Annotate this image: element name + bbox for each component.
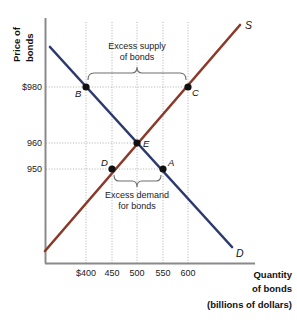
ytick-label-950: 950 (27, 164, 42, 174)
x-axis-title-line1: Quantity (253, 269, 292, 280)
point-a-label: A (167, 157, 174, 168)
x-axis-title-line2: of bonds (252, 283, 292, 294)
point-c-marker[interactable] (184, 83, 191, 90)
ytick-label-980: $980 (22, 82, 42, 92)
chart-canvas: S D Excess supply of bonds Excess demand… (0, 0, 297, 325)
x-axis-title-line3: (billions of dollars) (207, 299, 292, 310)
excess-demand-brace (114, 175, 161, 187)
x-axis-title: Quantity of bonds (billions of dollars) (207, 269, 293, 310)
point-e-marker[interactable] (133, 139, 140, 146)
ytick-label-960: 960 (27, 138, 42, 148)
excess-demand-label-line1: Excess demand (105, 190, 169, 200)
demand-curve[interactable] (50, 47, 232, 247)
point-c-label: C (192, 87, 199, 98)
supply-curve-label: S (245, 19, 252, 31)
xtick-label-450: 450 (104, 268, 119, 278)
y-axis-title: Price of bonds (11, 26, 35, 62)
excess-supply-label-line1: Excess supply (108, 41, 166, 51)
point-d-marker[interactable] (108, 165, 115, 172)
brace-lower-path (114, 175, 161, 187)
xtick-label-400: $400 (76, 268, 96, 278)
point-b-marker[interactable] (82, 83, 89, 90)
bond-market-chart: S D Excess supply of bonds Excess demand… (0, 0, 297, 325)
y-axis-title-line2: bonds (24, 34, 35, 63)
point-b-label: B (75, 88, 82, 99)
point-e-label: E (143, 138, 150, 149)
xtick-label-550: 550 (155, 268, 170, 278)
xtick-label-500: 500 (129, 268, 144, 278)
xtick-label-600: 600 (180, 268, 195, 278)
excess-supply-label-line2: of bonds (120, 52, 155, 62)
excess-demand-label-line2: for bonds (118, 201, 156, 211)
point-a-marker[interactable] (159, 165, 166, 172)
point-d-label: D (101, 157, 108, 168)
demand-curve-label: D (236, 247, 244, 259)
y-axis-title-line1: Price of (11, 26, 22, 62)
